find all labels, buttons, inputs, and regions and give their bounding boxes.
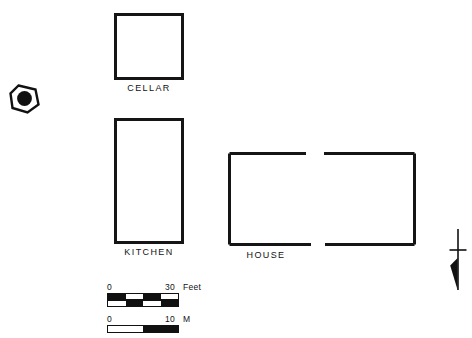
north-arrow-icon [446,228,470,292]
scale-feet-row-bottom [107,300,179,307]
cellar-label: CELLAR [114,83,184,93]
scale-bar-feet: 0 30 Feet [107,282,207,307]
scale-segment [108,326,143,332]
scale-feet-labels: 0 30 Feet [107,282,207,293]
scale-meters-labels: 0 10 M [107,314,207,325]
scale-segment [108,294,126,299]
house-label: HOUSE [228,250,304,260]
scale-meters-bar [107,325,179,333]
scale-segment [143,326,178,332]
site-plan-figure: CELLAR KITCHEN HOUSE [0,0,472,338]
scale-bar-meters: 0 10 M [107,314,207,333]
scale-meters-row [107,325,179,333]
scale-segment [161,301,179,306]
scale-meters-zero-label: 0 [107,314,112,324]
scale-feet-max-label: 30 [165,282,175,292]
scale-segment [161,294,179,299]
kitchen-label: KITCHEN [110,247,188,257]
scale-meters-unit-label: M [183,314,190,324]
scale-feet-row-top [107,293,179,300]
datum-point-marker [7,81,43,117]
scale-segment [143,294,161,299]
scale-meters-max-label: 10 [165,314,175,324]
scale-segment [126,301,144,306]
scale-segment [108,301,126,306]
scale-feet-unit-label: Feet [183,282,201,292]
scale-feet-bar [107,293,179,307]
scale-segment [126,294,144,299]
cellar-outline [114,13,184,80]
house-outline [228,152,416,246]
scale-feet-zero-label: 0 [107,282,112,292]
scale-bars: 0 30 Feet [107,282,207,334]
scale-segment [143,301,161,306]
kitchen-outline [114,118,184,244]
